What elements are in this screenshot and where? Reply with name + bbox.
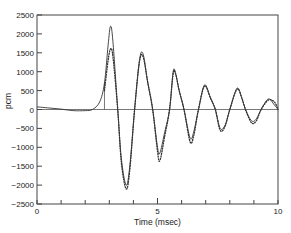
y-tick-label: 500 — [21, 87, 35, 96]
x-tick-label: 0 — [35, 207, 40, 216]
x-axis: 0510 — [35, 198, 283, 216]
y-tick-label: 1000 — [16, 68, 34, 77]
x-tick-label: 5 — [155, 207, 160, 216]
y-axis-label: pcm — [3, 93, 13, 109]
y-tick-label: −2000 — [12, 181, 35, 190]
x-axis-label: Time (msec) — [134, 217, 181, 227]
y-tick-label: 0 — [30, 106, 35, 115]
series-measured — [104, 48, 278, 189]
y-tick-label: 2000 — [16, 30, 34, 39]
plot-frame — [37, 15, 278, 204]
y-tick-label: −1000 — [12, 143, 35, 152]
x-tick-label: 10 — [274, 207, 283, 216]
y-tick-label: −1500 — [12, 162, 35, 171]
series-layer — [37, 26, 278, 189]
y-tick-label: −2500 — [12, 200, 35, 209]
y-tick-label: 1500 — [16, 49, 34, 58]
chart: 25002000150010005000−500−1000−1500−2000−… — [0, 0, 291, 233]
series-calculated — [37, 26, 278, 185]
y-tick-label: 2500 — [16, 11, 34, 20]
y-tick-label: −500 — [16, 124, 35, 133]
